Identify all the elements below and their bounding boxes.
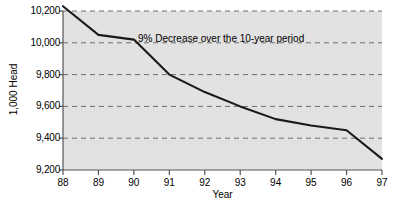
x-axis-tick-labels: 88899091929394959697 xyxy=(0,0,394,208)
x-axis-tick-label: 88 xyxy=(50,178,76,188)
chart-annotation: 9% Decrease over the 10-year period xyxy=(138,33,304,44)
x-axis-title: Year xyxy=(63,189,382,200)
line-chart: 9,2009,4009,6009,80010,00010,200 8889909… xyxy=(0,0,394,208)
x-axis-tick-label: 95 xyxy=(298,178,324,188)
x-axis-tick-label: 90 xyxy=(121,178,147,188)
x-axis-tick-label: 97 xyxy=(369,178,394,188)
y-axis-title: 1,000 Head xyxy=(8,40,19,140)
x-axis-tick-label: 94 xyxy=(263,178,289,188)
x-axis-tick-label: 93 xyxy=(227,178,253,188)
x-axis-tick-label: 91 xyxy=(156,178,182,188)
x-axis-tick-label: 96 xyxy=(334,178,360,188)
x-axis-tick-label: 92 xyxy=(192,178,218,188)
x-axis-tick-label: 89 xyxy=(85,178,111,188)
